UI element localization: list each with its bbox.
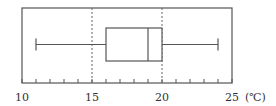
unit-label: (℃): [245, 91, 266, 104]
tick-label-15: 15: [85, 91, 99, 104]
tick-label-20: 20: [155, 91, 169, 104]
box-plot-chart: 10 15 20 25 (℃): [0, 0, 276, 106]
tick-label-25: 25: [225, 91, 239, 104]
tick-label-10: 10: [15, 91, 29, 104]
iqr-box: [106, 28, 162, 61]
